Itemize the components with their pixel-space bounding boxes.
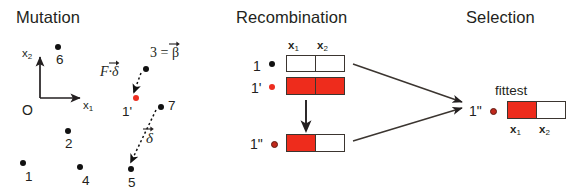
data-point-label-1-prime: 1' bbox=[122, 105, 132, 119]
selection-arrow-from-offspring bbox=[353, 108, 462, 141]
y-axis-label-subscript: 2 bbox=[28, 52, 32, 61]
panel-title-recombination: Recombination bbox=[236, 8, 347, 27]
vector-label-delta: δ bbox=[146, 131, 153, 146]
vector-overbar-arrow-icon bbox=[109, 60, 120, 66]
chromosome-bar-1-double-prime-cell-x2 bbox=[316, 135, 345, 151]
data-point-5 bbox=[128, 166, 134, 172]
selection-column-header-x2: x2 bbox=[539, 124, 550, 136]
data-point-7 bbox=[158, 104, 164, 110]
chromosome-bar-1-prime-cell-x1 bbox=[287, 78, 316, 94]
data-point-4 bbox=[77, 164, 83, 170]
data-point-label-7: 7 bbox=[168, 99, 176, 113]
data-point-1 bbox=[20, 160, 26, 166]
selection-result-label: 1" bbox=[469, 104, 482, 118]
recombination-row-label-1: 1 bbox=[253, 59, 261, 73]
data-point-2 bbox=[65, 128, 71, 134]
chromosome-bar-1-cell-x1 bbox=[287, 56, 316, 71]
origin-label: O bbox=[22, 103, 33, 117]
beta-overbar-arrow-icon bbox=[169, 41, 181, 47]
selection-arrow-from-parents bbox=[353, 64, 462, 102]
data-point-label-5: 5 bbox=[128, 176, 136, 190]
recombination-row-label-1-prime: 1' bbox=[251, 81, 261, 95]
data-point-label-6: 6 bbox=[56, 53, 64, 67]
recombination-column-header-x2: x2 bbox=[317, 40, 328, 52]
chromosome-bar-1 bbox=[286, 55, 345, 72]
vector-F-delta-arrow bbox=[134, 73, 141, 92]
data-point-3 bbox=[143, 66, 149, 72]
recombination-row-dot-1-prime bbox=[269, 84, 275, 90]
vector-label-F-delta-text: F·δ bbox=[100, 64, 119, 79]
data-point-1-prime-red bbox=[133, 95, 139, 101]
vector-overbar-arrow-icon-2 bbox=[143, 126, 155, 132]
chromosome-bar-1-double-prime-cell-x1 bbox=[287, 135, 316, 151]
x-axis-label: x1 bbox=[83, 100, 93, 112]
chromosome-bar-fittest-cell-x1 bbox=[508, 102, 537, 118]
recombination-header-x1-sub: 1 bbox=[294, 44, 298, 53]
mutation-vector-overlay bbox=[0, 0, 575, 195]
chromosome-bar-1-cell-x2 bbox=[316, 56, 345, 71]
selection-header-x2-sub: 2 bbox=[545, 128, 549, 137]
selection-header-x1-sub: 1 bbox=[516, 128, 520, 137]
panel-title-mutation: Mutation bbox=[16, 8, 80, 27]
beta-equation-text: 3 = β bbox=[150, 45, 179, 60]
selection-column-header-x1: x1 bbox=[510, 124, 521, 136]
data-point-label-1: 1 bbox=[25, 170, 33, 184]
recombination-row-label-1-double-prime: 1" bbox=[250, 137, 263, 151]
chromosome-bar-fittest bbox=[507, 101, 566, 119]
data-point-label-4: 4 bbox=[82, 174, 90, 188]
chromosome-bar-1-prime-cell-x2 bbox=[316, 78, 345, 94]
vector-label-F-delta: F·δ bbox=[100, 65, 119, 79]
chromosome-bar-1-double-prime bbox=[286, 134, 345, 152]
y-axis-label-text: x bbox=[22, 47, 28, 59]
beta-equation-annotation: 3 = β bbox=[150, 46, 179, 60]
chromosome-bar-fittest-cell-x2 bbox=[537, 102, 566, 118]
evolutionary-algorithm-figure: Mutation Recombination Selection bbox=[0, 0, 575, 195]
recombination-header-x2-sub: 2 bbox=[323, 44, 327, 53]
recombination-row-dot-1 bbox=[269, 61, 275, 67]
x-axis-label-subscript: 1 bbox=[89, 104, 93, 113]
vector-label-delta-text: δ bbox=[146, 130, 153, 146]
recombination-column-header-x1: x1 bbox=[288, 40, 299, 52]
data-point-6 bbox=[55, 44, 61, 50]
fittest-label: fittest bbox=[495, 84, 527, 98]
recombination-row-dot-1-double-prime bbox=[271, 141, 278, 148]
y-axis-label: x2 bbox=[22, 48, 32, 60]
data-point-label-2: 2 bbox=[65, 137, 73, 151]
x-axis-label-text: x bbox=[83, 99, 89, 111]
selection-result-dot bbox=[490, 108, 497, 115]
chromosome-bar-1-prime bbox=[286, 77, 345, 95]
panel-title-selection: Selection bbox=[466, 8, 535, 27]
